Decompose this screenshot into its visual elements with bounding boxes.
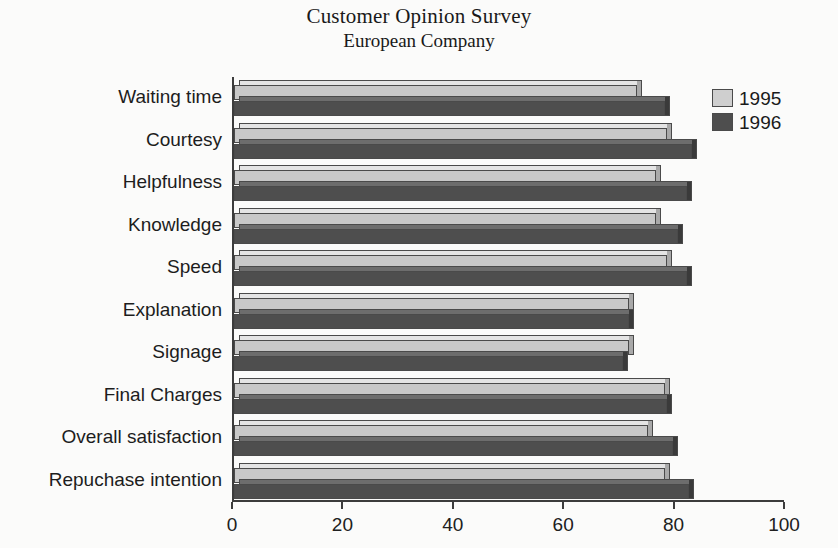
x-tick <box>783 502 785 509</box>
bar-side <box>667 394 672 414</box>
bar-group: Speed <box>232 247 784 290</box>
bar-side <box>673 436 678 456</box>
category-label: Final Charges <box>104 384 222 406</box>
page-title: Customer Opinion Survey <box>0 4 838 29</box>
bar-face <box>234 314 629 329</box>
category-label: Speed <box>167 256 222 278</box>
category-label: Helpfulness <box>123 171 222 193</box>
category-label: Explanation <box>123 299 222 321</box>
category-label: Repuchase intention <box>49 469 222 491</box>
category-label: Signage <box>152 341 222 363</box>
bar-group: Courtesy <box>232 120 784 163</box>
bar-face <box>234 144 692 159</box>
bar-face <box>234 229 678 244</box>
bar-1996 <box>234 484 689 499</box>
bar-group: Explanation <box>232 290 784 333</box>
bar-1996 <box>234 229 678 244</box>
legend-item-1995: 1995 <box>712 86 781 110</box>
bar-1996 <box>234 441 673 456</box>
bar-1996 <box>234 186 687 201</box>
x-tick <box>673 502 675 509</box>
x-tick <box>341 502 343 509</box>
bar-side <box>629 309 634 329</box>
bar-side <box>678 224 683 244</box>
bar-side <box>665 96 670 116</box>
x-tick-label: 60 <box>553 514 574 536</box>
bar-face <box>234 484 689 499</box>
x-tick <box>231 502 233 509</box>
chart-subtitle: European Company <box>0 29 838 53</box>
x-tick <box>452 502 454 509</box>
bar-1996 <box>234 101 665 116</box>
x-tick <box>562 502 564 509</box>
bar-side <box>687 181 692 201</box>
bar-side <box>689 479 694 499</box>
bar-1996 <box>234 144 692 159</box>
bar-group: Repuchase intention <box>232 460 784 503</box>
chart-legend: 1995 1996 <box>712 86 781 134</box>
bar-side <box>629 335 634 355</box>
x-tick-label: 20 <box>332 514 353 536</box>
category-label: Overall satisfaction <box>61 426 222 448</box>
bar-side <box>692 139 697 159</box>
bar-face <box>234 399 667 414</box>
bar-1996 <box>234 356 623 371</box>
bar-group: Waiting time <box>232 77 784 120</box>
bar-1996 <box>234 399 667 414</box>
bar-face <box>234 101 665 116</box>
x-tick-label: 40 <box>442 514 463 536</box>
legend-swatch-icon-1996 <box>712 113 733 131</box>
legend-swatch-icon-1995 <box>712 89 733 107</box>
bar-side <box>687 266 692 286</box>
bar-1996 <box>234 271 687 286</box>
category-label: Knowledge <box>128 214 222 236</box>
bar-group: Signage <box>232 332 784 375</box>
x-tick-label: 0 <box>227 514 238 536</box>
x-tick-label: 80 <box>663 514 684 536</box>
bar-face <box>234 271 687 286</box>
bar-group: Knowledge <box>232 205 784 248</box>
bar-side <box>623 351 628 371</box>
legend-item-1996: 1996 <box>712 110 781 134</box>
chart-title-block: Customer Opinion Survey European Company <box>0 4 838 53</box>
bar-face <box>234 356 623 371</box>
x-tick-label: 100 <box>768 514 800 536</box>
category-label: Waiting time <box>118 86 222 108</box>
bar-group: Helpfulness <box>232 162 784 205</box>
bar-group: Final Charges <box>232 375 784 418</box>
bar-1996 <box>234 314 629 329</box>
category-label: Courtesy <box>146 129 222 151</box>
plot-area: 020406080100 Waiting timeCourtesyHelpful… <box>232 77 784 502</box>
legend-label-1996: 1996 <box>739 113 781 132</box>
legend-label-1995: 1995 <box>739 89 781 108</box>
bar-group: Overall satisfaction <box>232 417 784 460</box>
bar-face <box>234 441 673 456</box>
chart-canvas: Customer Opinion Survey European Company… <box>0 0 838 548</box>
bar-face <box>234 186 687 201</box>
